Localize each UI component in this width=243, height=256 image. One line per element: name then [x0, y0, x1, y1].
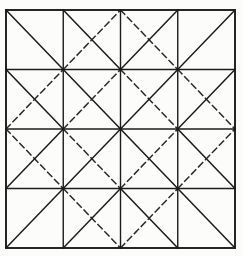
cell-r4c4-backslash-diagonal	[178, 189, 235, 249]
cell-r1c4-slash-diagonal	[178, 10, 235, 70]
cell-r4c1-slash-diagonal	[6, 189, 63, 249]
geometric-figure	[0, 0, 243, 256]
grid-diagram	[0, 0, 243, 256]
cell-r1c1-backslash-diagonal	[6, 10, 63, 70]
